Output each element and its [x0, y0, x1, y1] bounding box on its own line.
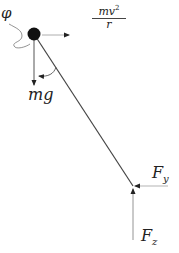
pendulum-diagram [0, 0, 179, 253]
force-y-base: F [152, 163, 163, 182]
pendulum-rod [34, 34, 133, 186]
centripetal-denominator: r [92, 19, 126, 31]
centripetal-numerator: mv2 [92, 3, 126, 19]
force-z-base: F [141, 226, 152, 245]
force-y-subscript: y [163, 173, 169, 184]
numerator-text: mv [98, 5, 115, 18]
force-y-label: Fy [152, 165, 169, 184]
pendulum-mass [28, 28, 41, 41]
numerator-exponent: 2 [115, 4, 119, 12]
centripetal-force-label: mv2 r [92, 3, 126, 31]
force-z-label: Fz [141, 228, 157, 247]
force-z-subscript: z [152, 236, 157, 247]
angle-leader-line [9, 24, 30, 48]
angle-label-phi: φ [1, 6, 12, 21]
weight-label: mg [28, 87, 53, 103]
angle-arc [39, 67, 56, 76]
